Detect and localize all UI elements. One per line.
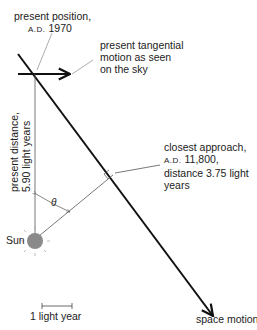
era-label: A.D. xyxy=(164,156,182,165)
tangential-line-1: present tangential xyxy=(100,39,183,51)
scale-bar xyxy=(42,303,72,309)
scale-label: 1 light year xyxy=(30,310,81,322)
sun-label: Sun xyxy=(6,234,25,246)
closest-approach-label: closest approach, A.D. 11,800, distance … xyxy=(164,141,249,191)
closest-line-3: distance 3.75 light xyxy=(164,167,249,179)
tangential-line-3: on the sky xyxy=(100,63,183,75)
tangential-motion-label: present tangential motion as seen on the… xyxy=(100,39,183,75)
closest-line-4: years xyxy=(164,179,249,191)
space-motion-label: space motion xyxy=(196,313,257,325)
year-label: 1970 xyxy=(48,22,71,34)
present-position-date: A.D. 1970 xyxy=(14,22,91,36)
present-position-text: present position, xyxy=(14,10,91,22)
present-position-label: present position, A.D. 1970 xyxy=(14,10,91,36)
closest-date: A.D. 11,800, xyxy=(164,153,249,167)
tangential-leader xyxy=(72,60,93,74)
present-distance-line-2: 5.90 light years xyxy=(20,112,32,192)
closest-line-1: closest approach, xyxy=(164,141,249,153)
era-label: A.D. xyxy=(28,25,46,34)
closest-approach-leader xyxy=(115,165,160,173)
tangential-line-2: motion as seen xyxy=(100,51,183,63)
present-position-leader xyxy=(37,33,52,70)
present-distance-label: present distance, 5.90 light years xyxy=(8,112,32,192)
present-distance-line-1: present distance, xyxy=(8,112,20,192)
theta-label: θ xyxy=(51,197,56,209)
year-label: 11,800, xyxy=(184,153,218,165)
